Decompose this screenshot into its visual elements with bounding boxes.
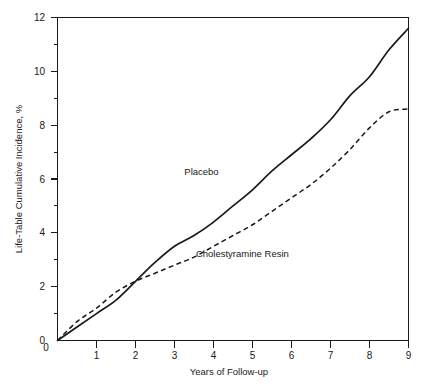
- x-tick-label-5: 5: [250, 350, 256, 361]
- x-tick-label-6: 6: [289, 350, 295, 361]
- y-axis-tick-labels: 12 10 8 6 4 2 0: [34, 12, 46, 346]
- series-label-cholestyramine-resin: Cholestyramine Resin: [196, 248, 289, 259]
- y-tick-label-12: 12: [34, 12, 46, 23]
- series-label-placebo: Placebo: [184, 166, 218, 177]
- x-tick-label-2: 2: [133, 350, 139, 361]
- x-axis-title: Years of Follow-up: [190, 366, 268, 377]
- y-tick-label-6: 6: [39, 174, 45, 185]
- y-axis-ticks: [51, 18, 58, 314]
- x-tick-label-3: 3: [172, 350, 178, 361]
- data-series-group: [58, 28, 409, 340]
- y-tick-label-2: 2: [39, 281, 45, 292]
- x-axis-tick-labels: 0 1 2 3 4 5 6 7 8 9: [43, 342, 412, 361]
- x-tick-label-0: 0: [43, 342, 49, 353]
- x-tick-label-8: 8: [367, 350, 373, 361]
- x-tick-label-1: 1: [94, 350, 100, 361]
- x-tick-label-7: 7: [328, 350, 334, 361]
- x-axis-ticks: [97, 341, 409, 348]
- plot-frame: [58, 18, 409, 341]
- y-axis-title: Life-Table Cumulative Incidence, %: [13, 104, 24, 253]
- chart-figure: 12 10 8 6 4 2 0 0 1 2 3 4 5 6 7 8 9 Life…: [0, 0, 422, 384]
- y-tick-label-10: 10: [34, 66, 46, 77]
- y-tick-label-4: 4: [39, 227, 45, 238]
- series-line-cholestyramine-resin: [58, 109, 409, 340]
- y-tick-label-8: 8: [39, 120, 45, 131]
- x-tick-label-4: 4: [211, 350, 217, 361]
- x-tick-label-9: 9: [406, 350, 412, 361]
- series-line-placebo: [58, 28, 409, 340]
